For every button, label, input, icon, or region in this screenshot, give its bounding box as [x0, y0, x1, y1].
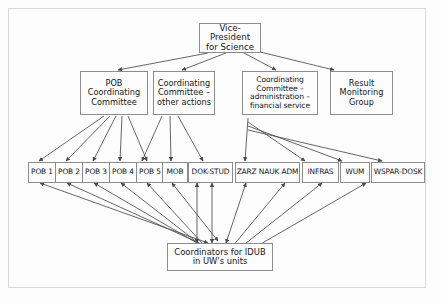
- node-coordinating-committee-administration-financial-service[interactable]: Coordinating Committee – administration …: [242, 71, 318, 115]
- node-result-monitoring-group[interactable]: Result Monitoring Group: [330, 71, 393, 115]
- node-coordinating-committee-other-actions[interactable]: Coordinating Committee – other actions: [153, 71, 215, 115]
- node-pob-3[interactable]: POB 3: [82, 162, 110, 183]
- connectors-other-actions-to-units: [142, 116, 203, 161]
- node-mob[interactable]: MOB: [162, 162, 188, 183]
- connectors-pob-committee-to-pobs: [39, 116, 147, 161]
- node-dok-stud[interactable]: DOK-STUD: [188, 162, 233, 183]
- node-zarz-nauk-adm[interactable]: ZARZ NAUK ADM: [235, 162, 300, 183]
- node-wum[interactable]: WUM: [340, 162, 370, 183]
- node-pob-coordinating-committee[interactable]: POB Coordinating Committee: [80, 71, 148, 115]
- connectors-admin-committee-to-units: [245, 118, 382, 161]
- connectors-vp-to-tier2: [118, 50, 334, 70]
- node-wspar-dosk[interactable]: WSPAR-DOSK: [371, 162, 425, 183]
- node-infras[interactable]: INFRAS: [302, 162, 339, 183]
- node-vice-president-for-science[interactable]: Vice-President for Science: [199, 23, 261, 53]
- node-pob-5[interactable]: POB 5: [136, 162, 164, 183]
- diagram-canvas: Vice-President for Science POB Coordinat…: [0, 0, 441, 304]
- node-pob-4[interactable]: POB 4: [109, 162, 137, 183]
- node-pob-2[interactable]: POB 2: [55, 162, 83, 183]
- node-pob-1[interactable]: POB 1: [28, 162, 56, 183]
- node-coordinators-for-idub-in-uw-units[interactable]: Coordinators for IDUB in UW's units: [167, 243, 273, 271]
